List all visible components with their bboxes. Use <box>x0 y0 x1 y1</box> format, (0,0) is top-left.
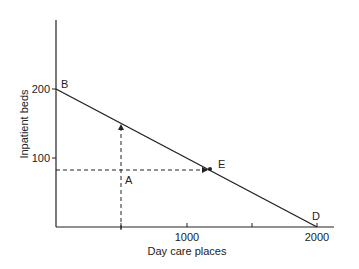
y-tick-label-100: 100 <box>32 152 50 164</box>
x-tick-label-2000: 2000 <box>305 231 329 243</box>
y-tick-label-200: 200 <box>32 83 50 95</box>
x-tick-label-1000: 1000 <box>175 231 199 243</box>
label-e: E <box>218 158 225 170</box>
chart: 200 100 1000 2000 Day care places Inpati… <box>0 0 359 269</box>
x-axis-label: Day care places <box>148 245 227 257</box>
label-a: A <box>125 174 133 186</box>
label-d: D <box>312 210 320 222</box>
tradeoff-line-bd <box>56 89 317 227</box>
label-b: B <box>61 78 68 90</box>
point-e <box>208 167 212 171</box>
y-axis-label: Inpatient beds <box>18 89 30 159</box>
